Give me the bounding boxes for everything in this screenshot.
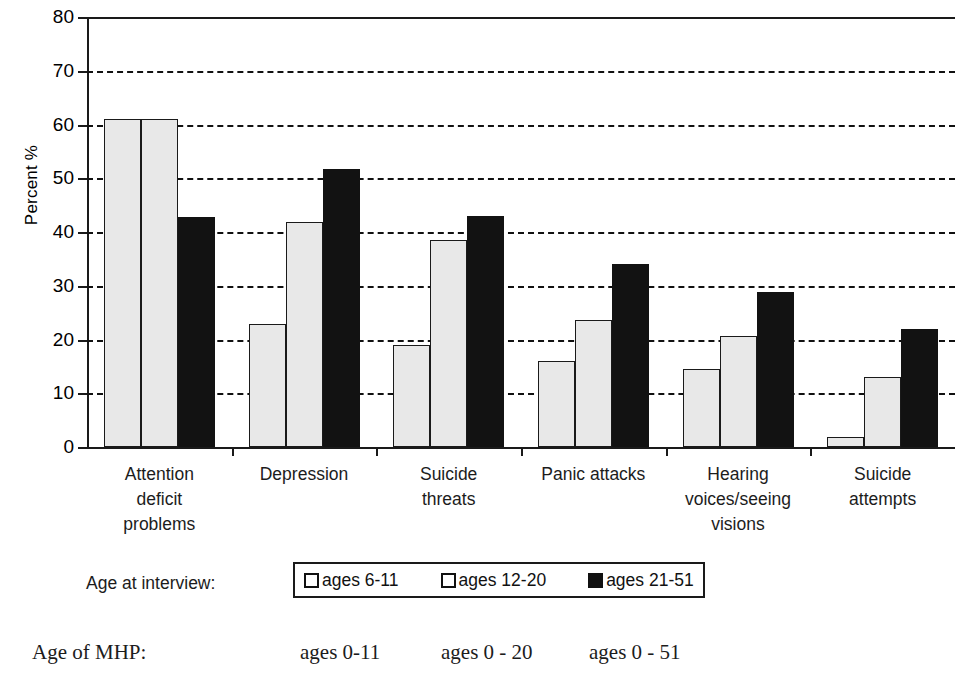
legend-caption: Age at interview: <box>86 573 215 594</box>
y-tick-mark-40 <box>78 232 87 234</box>
x-tick-mark-3 <box>521 447 523 456</box>
y-tick-mark-20 <box>78 340 87 342</box>
legend-entry[interactable]: ages 12-20 <box>441 570 547 591</box>
bar <box>683 369 720 447</box>
mhp-caption-row: Age of MHP:ages 0-11ages 0 - 20ages 0 - … <box>0 640 955 670</box>
y-tick-label-20: 20 <box>53 329 74 351</box>
y-tick-label-10: 10 <box>53 382 74 404</box>
bar <box>141 119 178 447</box>
legend-entry-label: ages 6-11 <box>322 570 399 591</box>
bar <box>104 119 141 447</box>
x-category-label-line: deficit <box>87 487 232 512</box>
bar <box>575 320 612 447</box>
legend-box: ages 6-11ages 12-20ages 21-51 <box>293 562 705 598</box>
x-category-label-line: visions <box>666 512 811 537</box>
legend-swatch-icon <box>304 573 319 588</box>
x-category-label: Depression <box>232 462 377 487</box>
bar <box>323 169 360 447</box>
y-tick-label-0: 0 <box>63 436 74 458</box>
plot-area: 01020304050607080 <box>87 17 955 447</box>
x-tick-mark-5 <box>810 447 812 456</box>
y-axis-title: Percent % <box>22 115 42 255</box>
x-tick-mark-1 <box>232 447 234 456</box>
bar <box>720 336 757 447</box>
y-tick-mark-30 <box>78 286 87 288</box>
gridline-70 <box>87 71 955 73</box>
x-category-label: Attentiondeficitproblems <box>87 462 232 537</box>
y-tick-label-50: 50 <box>53 167 74 189</box>
bar <box>249 324 286 447</box>
bar <box>827 437 864 447</box>
y-tick-mark-0 <box>78 447 87 449</box>
x-category-label-line: threats <box>376 487 521 512</box>
legend-entry[interactable]: ages 21-51 <box>588 570 694 591</box>
y-tick-label-40: 40 <box>53 221 74 243</box>
bar <box>864 377 901 447</box>
x-category-label: Hearingvoices/seeingvisions <box>666 462 811 537</box>
legend-swatch-icon <box>588 573 603 588</box>
legend-entry-label: ages 12-20 <box>459 570 547 591</box>
gridline-30 <box>87 286 955 288</box>
gridline-60 <box>87 125 955 127</box>
legend-entry[interactable]: ages 6-11 <box>304 570 399 591</box>
y-tick-mark-50 <box>78 178 87 180</box>
y-tick-label-80: 80 <box>53 6 74 28</box>
mhp-caption: Age of MHP: <box>32 640 146 665</box>
gridline-10 <box>87 393 955 395</box>
y-tick-mark-80 <box>78 17 87 19</box>
bar <box>178 217 215 447</box>
x-category-label: Suicideattempts <box>810 462 955 512</box>
y-tick-mark-70 <box>78 71 87 73</box>
x-category-label-line: Hearing <box>666 462 811 487</box>
y-tick-mark-10 <box>78 393 87 395</box>
x-tick-mark-2 <box>376 447 378 456</box>
mhp-value: ages 0 - 51 <box>589 640 681 665</box>
x-category-label: Suicidethreats <box>376 462 521 512</box>
mhp-value: ages 0 - 20 <box>441 640 533 665</box>
legend-swatch-icon <box>441 573 456 588</box>
gridline-40 <box>87 232 955 234</box>
legend-entry-label: ages 21-51 <box>606 570 694 591</box>
bar-chart-figure: Percent % 01020304050607080 Attentiondef… <box>0 0 955 680</box>
bar <box>430 240 467 447</box>
x-category-label-line: voices/seeing <box>666 487 811 512</box>
bar <box>612 264 649 447</box>
bar <box>467 216 504 447</box>
y-tick-label-60: 60 <box>53 114 74 136</box>
x-tick-mark-4 <box>666 447 668 456</box>
x-category-label-line: problems <box>87 512 232 537</box>
x-category-label-line: Suicide <box>810 462 955 487</box>
x-category-label-line: Depression <box>232 462 377 487</box>
x-category-label-line: attempts <box>810 487 955 512</box>
bar <box>757 292 794 447</box>
bar <box>286 222 323 447</box>
mhp-value: ages 0-11 <box>300 640 380 665</box>
y-tick-label-70: 70 <box>53 60 74 82</box>
x-category-label-line: Attention <box>87 462 232 487</box>
y-tick-label-30: 30 <box>53 275 74 297</box>
plot-frame-top <box>87 17 955 19</box>
x-category-label-line: Suicide <box>376 462 521 487</box>
bar <box>538 361 575 447</box>
gridline-50 <box>87 178 955 180</box>
bar <box>393 345 430 447</box>
bar <box>901 329 938 447</box>
y-tick-mark-60 <box>78 125 87 127</box>
x-category-label-line: Panic attacks <box>521 462 666 487</box>
gridline-20 <box>87 340 955 342</box>
x-category-label: Panic attacks <box>521 462 666 487</box>
